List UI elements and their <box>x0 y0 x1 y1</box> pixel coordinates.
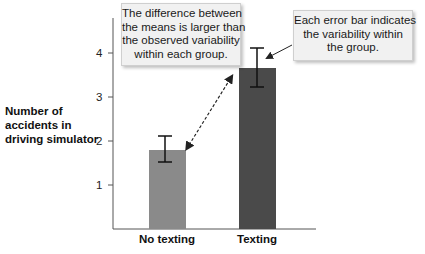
x-label-no-texting: No texting <box>139 233 195 245</box>
callout-line: Each error bar indicates <box>294 14 412 28</box>
error-bar-arrow <box>267 45 292 58</box>
callout-line: the variability within <box>294 28 412 42</box>
callout-difference: The difference between the means is larg… <box>121 3 241 66</box>
callout-error-bar: Each error bar indicates the variability… <box>293 10 413 61</box>
callout-line: within each group. <box>122 48 240 62</box>
callout-line: the observed variability <box>122 34 240 48</box>
bar-texting <box>239 68 276 229</box>
callout-line: the group. <box>294 41 412 55</box>
x-label-texting: Texting <box>237 233 277 245</box>
difference-arrow <box>189 76 232 145</box>
callout-line: The difference between <box>122 7 240 21</box>
callout-line: the means is larger than <box>122 21 240 35</box>
